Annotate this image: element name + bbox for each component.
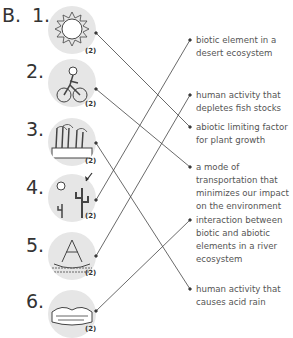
description-2: human activity that depletes fish stocks: [196, 89, 293, 115]
description-6: human activity that causes acid rain: [196, 283, 293, 309]
description-1: biotic element in a desert ecosystem: [196, 34, 293, 60]
description-4: a mode of transportation that minimizes …: [196, 161, 293, 213]
description-5: interaction between biotic and abiotic e…: [196, 214, 293, 266]
description-3: abiotic limiting factor for plant growth: [196, 121, 293, 147]
